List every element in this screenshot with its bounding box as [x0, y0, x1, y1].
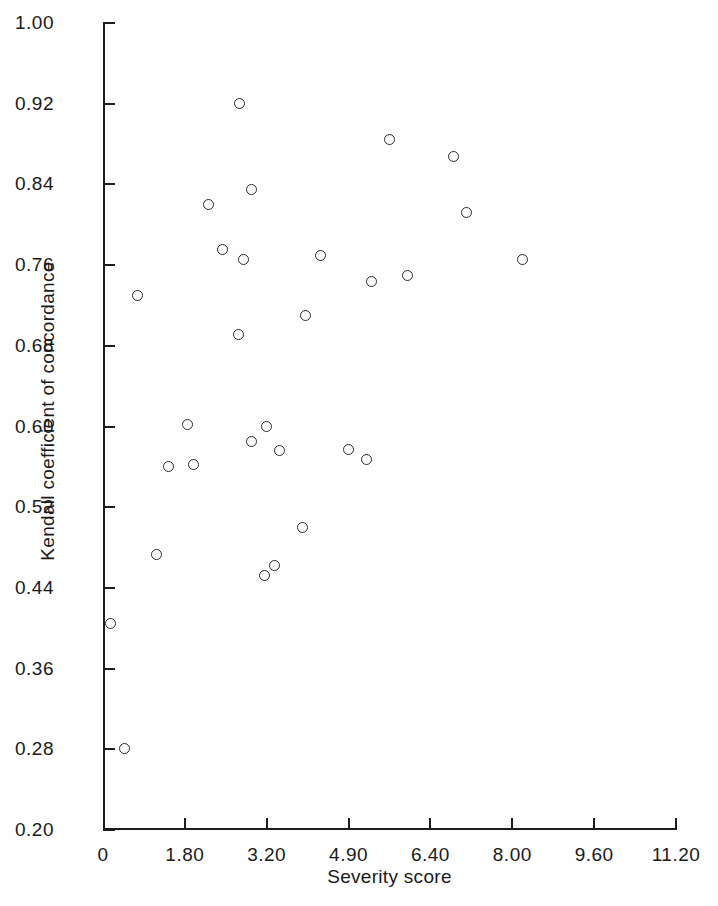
x-tick-label: 3.20 [227, 845, 307, 864]
plot-area: 1.000.920.840.760.680.600.520.440.360.28… [103, 23, 676, 830]
y-tick-mark [103, 183, 115, 185]
x-tick-label: 1.80 [145, 845, 225, 864]
y-tick-label: 1.00 [0, 13, 54, 32]
x-axis-line [103, 828, 676, 830]
y-tick-label: 0.20 [0, 820, 54, 839]
y-tick-mark [103, 426, 115, 428]
data-point [119, 743, 130, 754]
data-point [384, 134, 395, 145]
y-tick-mark [103, 22, 115, 24]
y-tick-mark [103, 345, 115, 347]
data-point [315, 250, 326, 261]
data-point [259, 570, 270, 581]
x-tick-mark [429, 818, 431, 830]
data-point [188, 459, 199, 470]
y-tick-mark [103, 668, 115, 670]
data-point [448, 151, 459, 162]
scatter-plot-figure: 1.000.920.840.760.680.600.520.440.360.28… [0, 0, 718, 906]
data-point [203, 199, 214, 210]
y-tick-mark [103, 829, 115, 831]
data-point [517, 254, 528, 265]
data-point [233, 329, 244, 340]
data-point [151, 549, 162, 560]
y-tick-mark [103, 264, 115, 266]
y-tick-mark [103, 748, 115, 750]
data-point [246, 436, 257, 447]
data-point [238, 254, 249, 265]
data-point [461, 207, 472, 218]
x-tick-mark [348, 818, 350, 830]
y-tick-label: 0.28 [0, 739, 54, 758]
data-point [234, 98, 245, 109]
y-axis-title: Kendall coefficient of concordance [37, 131, 59, 691]
x-tick-label: 6.40 [390, 845, 470, 864]
y-tick-label: 0.92 [0, 94, 54, 113]
data-point [246, 184, 257, 195]
x-tick-label: 11.20 [636, 845, 716, 864]
x-tick-label: 4.90 [309, 845, 389, 864]
x-axis-title: Severity score [103, 866, 676, 888]
x-tick-mark [593, 818, 595, 830]
data-point [274, 445, 285, 456]
data-point [132, 290, 143, 301]
x-tick-label: 9.60 [554, 845, 634, 864]
data-point [269, 560, 280, 571]
y-tick-mark [103, 506, 115, 508]
data-point [163, 461, 174, 472]
data-point [361, 454, 372, 465]
x-tick-mark [184, 818, 186, 830]
x-tick-mark [266, 818, 268, 830]
data-point [182, 419, 193, 430]
x-tick-mark [675, 818, 677, 830]
x-tick-mark [511, 818, 513, 830]
x-tick-label: 0 [63, 845, 143, 864]
data-point [261, 421, 272, 432]
data-point [105, 618, 116, 629]
x-tick-label: 8.00 [472, 845, 552, 864]
data-point [300, 310, 311, 321]
data-point [217, 244, 228, 255]
data-point [297, 522, 308, 533]
data-point [402, 270, 413, 281]
data-point [366, 276, 377, 287]
data-point [343, 444, 354, 455]
y-tick-mark [103, 587, 115, 589]
y-tick-mark [103, 103, 115, 105]
